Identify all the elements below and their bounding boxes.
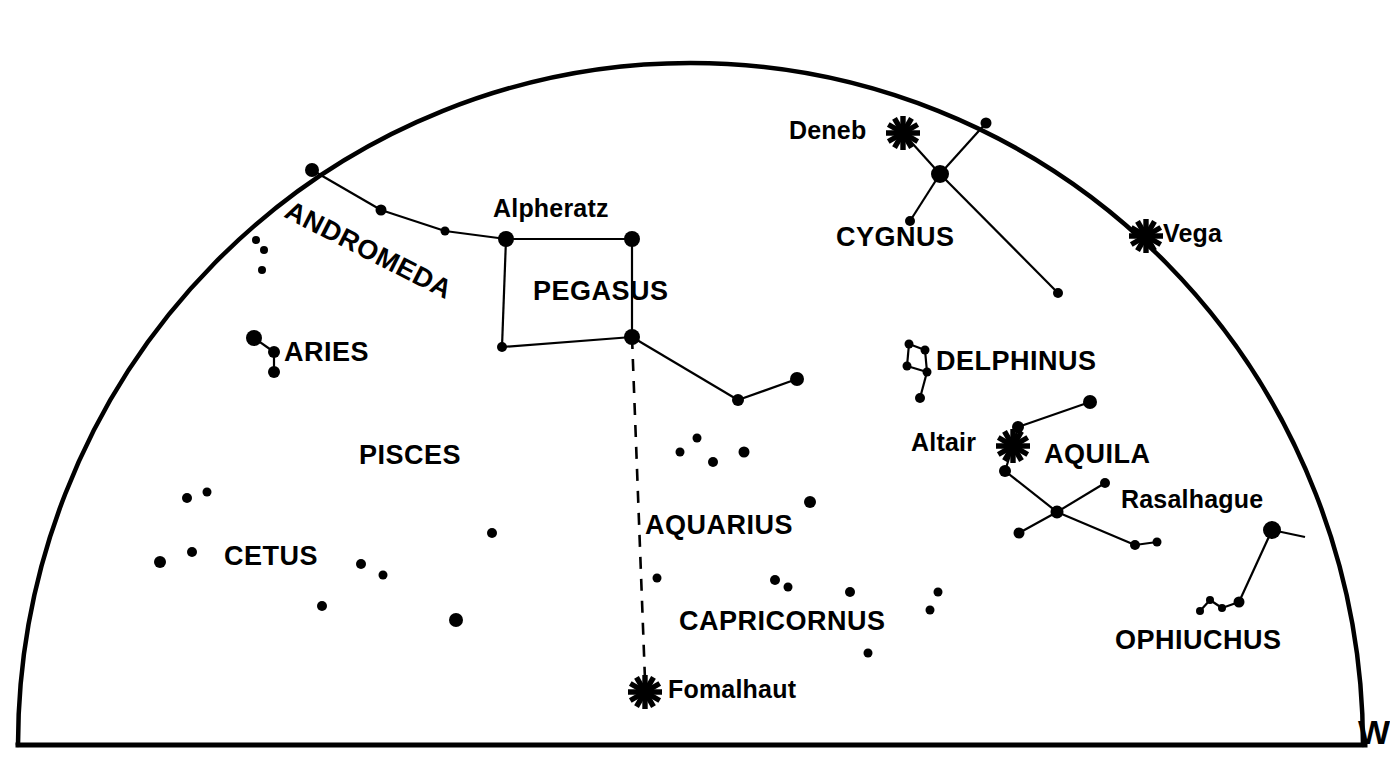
star-dot <box>305 163 319 177</box>
constellation-line <box>1019 512 1057 533</box>
star-dot <box>926 606 935 615</box>
star-dot <box>497 342 507 352</box>
horizon-dome <box>18 63 1365 745</box>
asterisk-core <box>1008 441 1019 452</box>
star-dot <box>999 465 1011 477</box>
star-dot <box>441 227 450 236</box>
star-dot <box>1263 521 1281 539</box>
constellation-line <box>502 239 506 347</box>
star-dot <box>1014 528 1025 539</box>
star-dot <box>732 394 744 406</box>
bright-star-markers <box>628 116 1163 709</box>
star-dot <box>376 205 387 216</box>
constellation-line <box>738 379 797 400</box>
star-dot <box>246 330 262 346</box>
star-dot <box>905 216 915 226</box>
star-dot <box>487 528 497 538</box>
star-dot <box>903 362 912 371</box>
star-dot <box>187 547 197 557</box>
constellation-lines <box>254 123 1305 611</box>
star-dot <box>981 118 992 129</box>
bright-star-marker-fomalhaut <box>628 675 662 709</box>
star-dot <box>790 372 804 386</box>
star-dot <box>268 346 280 358</box>
asterisk-core <box>1141 231 1152 242</box>
star-dot <box>1196 607 1204 615</box>
star-dot <box>317 601 327 611</box>
constellation-line <box>1057 483 1105 512</box>
dashed-meridian-line <box>632 337 645 680</box>
star-dot <box>864 649 873 658</box>
star-dot <box>203 488 212 497</box>
dome-arc <box>18 63 1363 745</box>
star-dot <box>1206 596 1214 604</box>
star-dot <box>356 559 366 569</box>
constellation-line <box>632 337 738 400</box>
constellation-line <box>1057 512 1135 545</box>
star-dot <box>624 231 640 247</box>
constellation-line <box>1018 402 1090 427</box>
star-dot <box>915 393 925 403</box>
star-dot <box>923 368 932 377</box>
star-dot <box>1218 604 1226 612</box>
bright-star-marker-altair <box>996 429 1030 463</box>
constellation-line <box>1239 530 1272 602</box>
constellation-line <box>381 210 445 231</box>
constellation-line <box>940 174 1058 293</box>
star-dot <box>154 556 166 568</box>
star-dot <box>1053 288 1063 298</box>
star-dot <box>1153 538 1162 547</box>
star-dot <box>1051 506 1064 519</box>
star-dot <box>1130 540 1140 550</box>
star-dot <box>252 236 260 244</box>
star-dot <box>770 575 780 585</box>
constellation-dashed-lines <box>632 337 645 680</box>
star-dot <box>624 329 640 345</box>
star-dot <box>804 496 816 508</box>
star-dot <box>905 340 914 349</box>
asterisk-core <box>898 128 909 139</box>
star-dot <box>260 246 268 254</box>
star-dot <box>676 448 685 457</box>
star-dot <box>1234 597 1245 608</box>
constellation-line <box>1005 471 1057 512</box>
star-dot <box>653 574 662 583</box>
star-dot <box>1083 395 1097 409</box>
star-dot <box>845 587 855 597</box>
constellation-line <box>940 123 986 174</box>
star-dot <box>934 588 943 597</box>
constellation-line <box>312 170 381 210</box>
star-dot <box>739 447 750 458</box>
constellation-line <box>445 231 506 239</box>
star-dot <box>498 231 514 247</box>
star-dot <box>708 457 718 467</box>
star-dot <box>921 346 930 355</box>
constellation-line <box>502 337 632 347</box>
star-dot <box>182 493 192 503</box>
asterisk-core <box>640 687 651 698</box>
star-dot <box>693 434 702 443</box>
star-dot <box>1100 478 1110 488</box>
star-dot <box>784 583 793 592</box>
bright-star-marker-vega <box>1129 219 1163 253</box>
star-dot <box>379 571 388 580</box>
star-dot <box>268 366 280 378</box>
star-dot <box>258 266 266 274</box>
star-dot <box>931 165 949 183</box>
star-dot <box>449 613 463 627</box>
